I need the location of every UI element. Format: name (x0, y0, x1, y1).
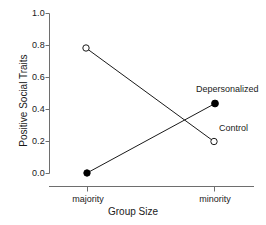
y-axis-title: Positive Social Traits (18, 21, 29, 181)
data-point-depersonalized-majority (84, 170, 90, 176)
y-axis-ticks (46, 14, 50, 174)
series-label-depersonalized: Depersonalized (196, 84, 259, 94)
y-tick-label-1: 1.0 (21, 8, 45, 18)
x-axis-ticks (88, 187, 215, 192)
data-point-depersonalized-minority (212, 100, 219, 107)
series-label-control: Control (219, 123, 248, 133)
x-axis-title: Group Size (0, 206, 266, 217)
x-tick-label-majority: majority (58, 194, 118, 204)
data-point-control-majority (83, 45, 89, 51)
chart-container: 1.0 0.8 0.6 0.4 0.2 0.0 majority minorit… (0, 0, 266, 225)
series-line-control (86, 48, 214, 142)
x-tick-label-minority: minority (185, 194, 245, 204)
series-line-depersonalized (87, 104, 215, 174)
data-point-control-minority (211, 138, 217, 144)
